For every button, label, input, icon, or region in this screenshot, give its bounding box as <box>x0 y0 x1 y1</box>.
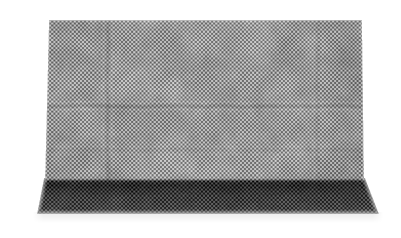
mesh-fabric-photo <box>0 0 401 238</box>
photo-stage: Rectangular sheet of fine dark gray wove… <box>0 0 401 238</box>
